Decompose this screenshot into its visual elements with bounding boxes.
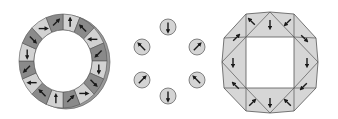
octagonal-magnet-array — [222, 12, 318, 113]
magnet-arrays-diagram — [0, 0, 338, 119]
segmented-ring-magnet — [19, 14, 110, 109]
cylinder-magnet-group — [134, 19, 205, 104]
